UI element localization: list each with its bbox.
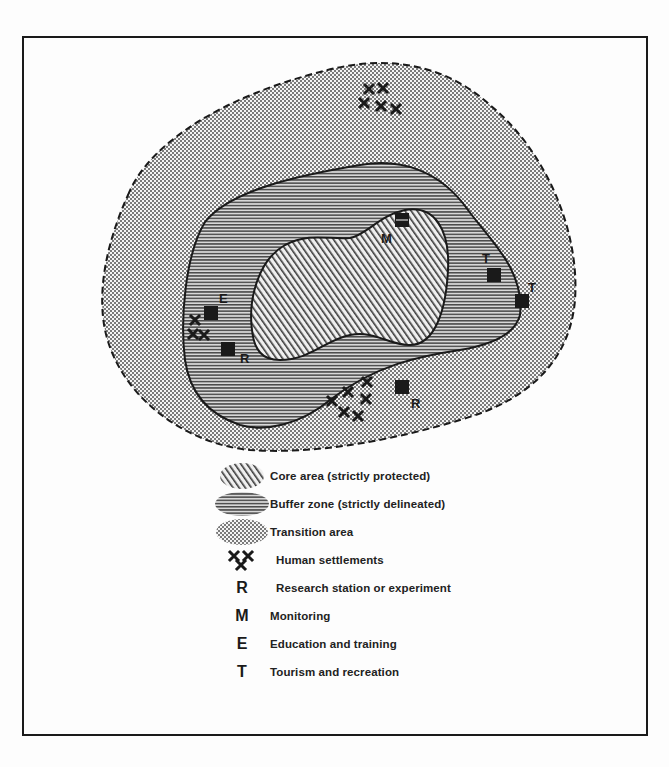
research-station-2	[395, 380, 409, 394]
research-label-1: R	[240, 351, 250, 366]
transition-swatch-icon	[214, 518, 270, 546]
legend-item-research: R Research station or experiment	[214, 574, 544, 602]
legend-item-buffer: Buffer zone (strictly delineated)	[214, 490, 544, 518]
tourism-label-2: T	[528, 280, 536, 295]
tourism-station-1	[487, 268, 501, 282]
legend-item-transition: Transition area	[214, 518, 544, 546]
research-station-1	[221, 342, 235, 356]
legend: Core area (strictly protected) Buffer zo…	[214, 462, 544, 686]
legend-label: Human settlements	[276, 554, 384, 566]
monitoring-label: M	[381, 231, 392, 246]
tourism-station-2	[515, 294, 529, 308]
research-label-2: R	[411, 396, 421, 411]
legend-item-settlements: Human settlements	[214, 546, 544, 574]
education-label: E	[219, 291, 228, 306]
legend-label: Core area (strictly protected)	[270, 470, 430, 482]
education-letter-icon: E	[214, 635, 270, 653]
settlement-icon	[214, 546, 270, 574]
buffer-swatch-icon	[214, 490, 270, 518]
core-swatch-icon	[214, 462, 270, 490]
legend-item-education: E Education and training	[214, 630, 544, 658]
legend-label: Research station or experiment	[276, 582, 451, 594]
education-station	[204, 306, 218, 320]
legend-label: Tourism and recreation	[270, 666, 399, 678]
monitoring-letter-icon: M	[214, 607, 270, 625]
tourism-letter-icon: T	[214, 663, 270, 681]
legend-label: Transition area	[270, 526, 353, 538]
legend-label: Buffer zone (strictly delineated)	[270, 498, 445, 510]
research-letter-icon: R	[214, 579, 270, 597]
legend-label: Monitoring	[270, 610, 330, 622]
tourism-label-1: T	[482, 251, 490, 266]
legend-item-monitoring: M Monitoring	[214, 602, 544, 630]
legend-label: Education and training	[270, 638, 397, 650]
legend-item-tourism: T Tourism and recreation	[214, 658, 544, 686]
legend-item-core: Core area (strictly protected)	[214, 462, 544, 490]
